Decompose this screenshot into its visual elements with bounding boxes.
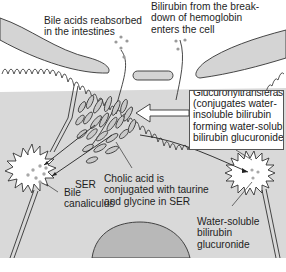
- endothelial-cell-right: [196, 30, 286, 78]
- bile-acid-dots: [114, 35, 128, 58]
- enzyme-title-clipped: Glucuronyltransferase: [193, 90, 281, 98]
- label-water-soluble-glucuronide: Water-soluble bilirubin glucuronide: [197, 216, 259, 250]
- enzyme-desc-line-1: (conjugates water-: [193, 98, 281, 109]
- label-bile-canaliculus: Bile canaliculus: [64, 187, 114, 210]
- label-bile-acids: Bile acids reabsorbed in the intestines: [44, 15, 142, 38]
- enzyme-desc-line-2: insoluble bilirubin: [193, 109, 281, 120]
- hepatocyte-diagram: Bile acids reabsorbed in the intestines …: [0, 0, 286, 272]
- label-cholic-acid: Cholic acid is conjugated with taurine a…: [104, 173, 209, 207]
- bottom-margin: [0, 258, 286, 272]
- enzyme-desc-line-3: forming water-soluble: [193, 121, 281, 132]
- endothelial-cell-middle: [133, 71, 173, 80]
- label-bilirubin-entry: Bilirubin from the break- down of hemogl…: [151, 1, 259, 35]
- enzyme-label-box: Glucuronyltransferase (conjugates water-…: [189, 90, 284, 150]
- enzyme-desc-line-4: bilirubin glucuronide): [193, 132, 281, 143]
